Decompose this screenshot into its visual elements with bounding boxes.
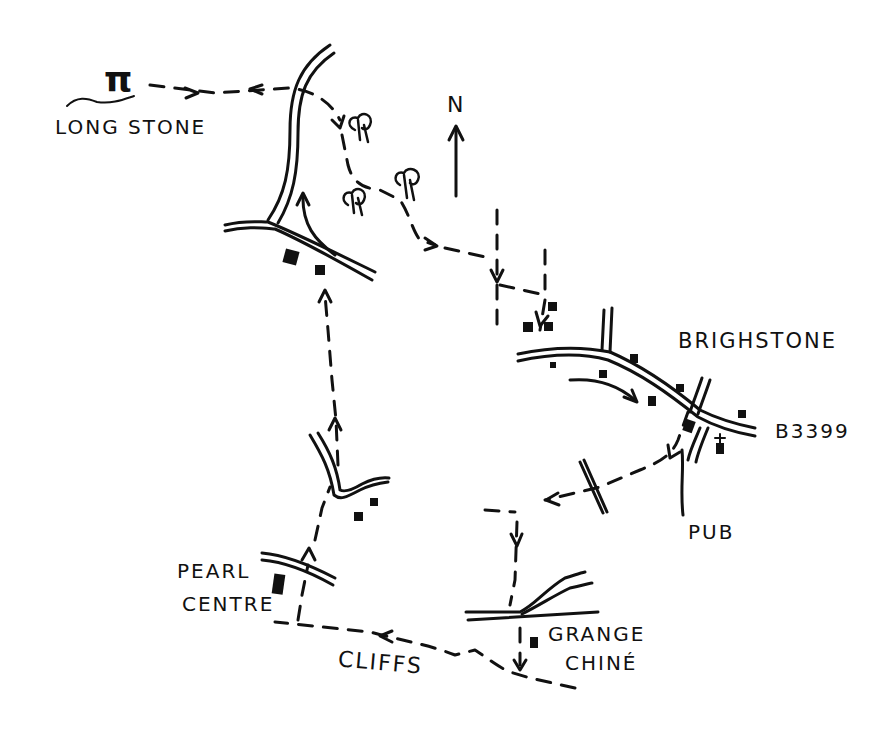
label-grange-chine-line2: CHINÉ bbox=[565, 653, 638, 673]
building bbox=[648, 396, 656, 406]
building bbox=[738, 410, 746, 418]
building bbox=[599, 370, 607, 378]
footpath-cliffs bbox=[275, 622, 575, 688]
building bbox=[282, 248, 299, 265]
label-pub: PUB bbox=[688, 522, 734, 542]
tree-icon bbox=[344, 189, 365, 215]
label-brighstone: BRIGHSTONE bbox=[678, 331, 837, 352]
road-grange-chine bbox=[466, 572, 598, 620]
footpath bbox=[315, 487, 330, 540]
building bbox=[354, 512, 363, 521]
footpath bbox=[485, 510, 515, 512]
label-long-stone: LONG STONE bbox=[55, 117, 206, 137]
road-valley bbox=[310, 433, 389, 498]
building bbox=[548, 302, 557, 311]
tree-icon bbox=[396, 169, 419, 200]
building bbox=[544, 322, 553, 331]
footpath-north bbox=[325, 295, 338, 465]
road-side bbox=[602, 310, 604, 350]
footpath bbox=[445, 248, 490, 258]
north-arrow-icon bbox=[449, 126, 463, 196]
footpath-brighstone-south bbox=[545, 412, 688, 500]
road-side bbox=[610, 308, 612, 352]
footpath bbox=[500, 285, 545, 295]
pub-pointer bbox=[682, 450, 683, 515]
long-stone-pointer bbox=[62, 92, 142, 112]
building bbox=[370, 498, 378, 506]
label-grange-chine-line1: GRANGE bbox=[548, 624, 645, 644]
building bbox=[676, 384, 684, 392]
route-map: π LONG STONE N BRIGHSTONE B3399 PUB PEAR… bbox=[0, 0, 895, 734]
building bbox=[523, 322, 533, 332]
label-north: N bbox=[447, 94, 465, 116]
road-pearl-centre bbox=[262, 553, 335, 585]
building bbox=[630, 354, 638, 363]
building bbox=[315, 265, 325, 275]
label-road-number: B3399 bbox=[775, 421, 850, 441]
label-pearl-centre-line1: PEARL bbox=[177, 561, 250, 581]
tree-icon bbox=[349, 114, 370, 142]
building bbox=[550, 362, 556, 368]
footpath bbox=[540, 250, 545, 330]
building bbox=[530, 637, 538, 648]
road-village-north bbox=[225, 222, 375, 280]
label-pearl-centre-line2: CENTRE bbox=[182, 594, 274, 614]
